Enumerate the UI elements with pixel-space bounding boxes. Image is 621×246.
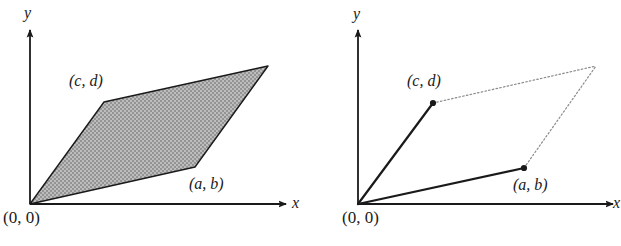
left-point-label-cd: (c, d) xyxy=(69,73,103,89)
right-point-label-ab: (a, b) xyxy=(513,177,548,193)
dotted-edge-cd-to-sum xyxy=(433,66,596,103)
dotted-edge-ab-to-sum xyxy=(524,66,596,168)
vector-to-ab xyxy=(358,168,524,204)
vector-to-cd xyxy=(358,103,433,204)
shaded-parallelogram xyxy=(30,66,268,204)
right-panel: y x (c, d) (a, b) (0, 0) xyxy=(311,0,621,246)
right-origin-label: (0, 0) xyxy=(342,209,379,226)
left-panel-drawing xyxy=(0,0,311,246)
left-panel: y x (c, d) (a, b) (0, 0) xyxy=(0,0,311,246)
left-x-axis-label: x xyxy=(292,195,299,211)
point-dot-cd xyxy=(430,100,436,106)
right-y-axis-label: y xyxy=(353,6,360,22)
right-point-label-cd: (c, d) xyxy=(407,73,441,89)
point-dot-ab xyxy=(521,165,527,171)
left-origin-label: (0, 0) xyxy=(3,209,40,226)
left-y-axis-label: y xyxy=(24,5,31,21)
left-point-label-ab: (a, b) xyxy=(189,176,224,192)
right-x-axis-label: x xyxy=(613,195,620,211)
determinant-parallelogram-figure: y x (c, d) (a, b) (0, 0) y xyxy=(0,0,621,246)
